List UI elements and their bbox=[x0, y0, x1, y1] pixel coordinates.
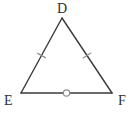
side-ef-circle-marker-icon bbox=[63, 90, 69, 96]
vertex-label-e: E bbox=[4, 94, 13, 108]
side-df-congruence-tick-icon bbox=[83, 53, 90, 58]
vertex-label-f: F bbox=[118, 94, 126, 108]
side-de-congruence-tick-icon bbox=[38, 53, 46, 57]
geometry-figure-triangle-def: D E F bbox=[0, 0, 133, 113]
triangle-diagram-svg bbox=[0, 0, 133, 113]
vertex-label-d: D bbox=[57, 2, 67, 16]
